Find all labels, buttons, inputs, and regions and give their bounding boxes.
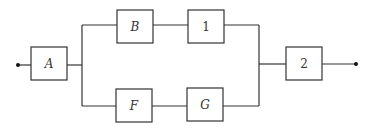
block-b-label: B [130,20,140,34]
block-a-label: A [44,57,54,71]
block-a: A [31,47,67,80]
block-g-label: G [200,98,210,112]
input-terminal [16,63,20,67]
reliability-diagram: A B 1 F G 2 [0,0,374,132]
block-f: F [116,89,152,122]
block-2-label: 2 [300,57,308,71]
block-1: 1 [188,10,224,43]
block-f-label: F [129,99,139,113]
block-g: G [187,88,223,121]
block-2: 2 [286,47,322,80]
block-b: B [117,10,153,43]
output-terminal [354,62,358,66]
block-1-label: 1 [202,20,210,34]
